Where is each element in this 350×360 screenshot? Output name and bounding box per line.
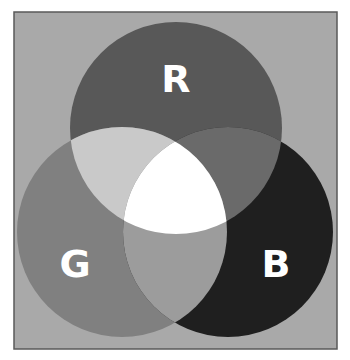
rgb-venn-diagram: R G B	[0, 0, 350, 360]
label-r: R	[161, 57, 190, 101]
label-b: B	[262, 242, 291, 286]
label-g: G	[59, 242, 90, 286]
